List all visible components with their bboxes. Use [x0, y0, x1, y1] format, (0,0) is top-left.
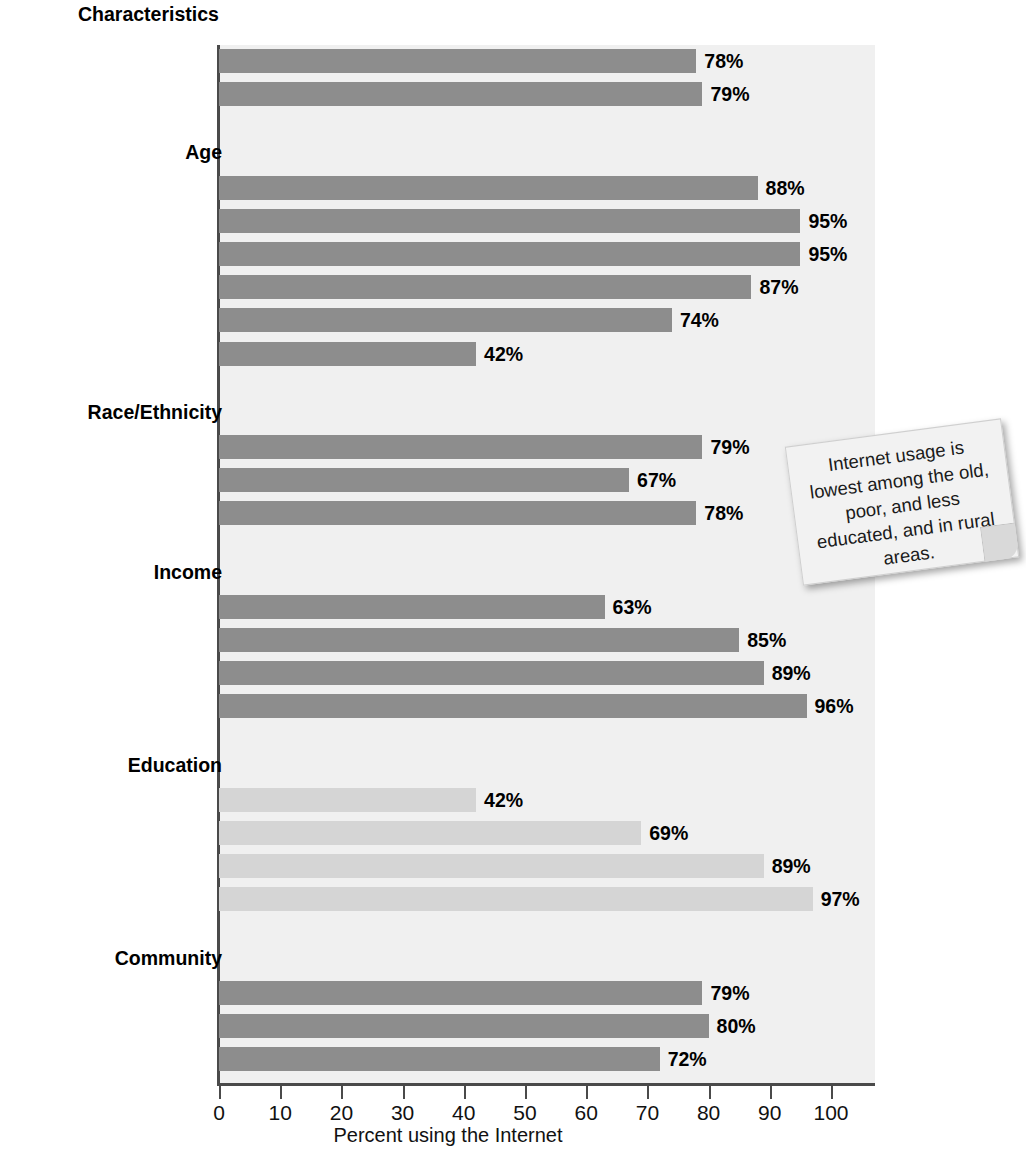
x-axis-tick — [831, 1086, 833, 1099]
bar-value-label: 63% — [613, 595, 652, 619]
bar — [219, 468, 629, 492]
group-heading-community: Community — [0, 946, 222, 970]
x-axis-tick — [280, 1086, 282, 1099]
x-axis-tick-label: 0 — [189, 1100, 249, 1126]
x-axis-tick — [525, 1086, 527, 1099]
bar — [219, 342, 476, 366]
bar-value-label: 80% — [717, 1014, 756, 1038]
x-axis-tick-label: 40 — [434, 1100, 494, 1126]
internet-usage-bar-chart: Characteristics Men78%Women79%Age12–1388… — [0, 0, 1026, 1153]
bar-value-label: 42% — [484, 342, 523, 366]
bar-value-label: 79% — [710, 981, 749, 1005]
x-axis-tick-label: 100 — [801, 1100, 861, 1126]
bar-value-label: 89% — [772, 854, 811, 878]
callout-note: Internet usage is lowest among the old, … — [785, 418, 1019, 585]
plot-background — [219, 45, 875, 1083]
bar — [219, 788, 476, 812]
bar-value-label: 85% — [747, 628, 786, 652]
bar-value-label: 42% — [484, 788, 523, 812]
bar — [219, 1047, 660, 1071]
group-heading-education: Education — [0, 753, 222, 777]
bar — [219, 628, 739, 652]
chart-title: Characteristics — [78, 2, 219, 26]
x-axis-tick — [586, 1086, 588, 1099]
bar-value-label: 72% — [668, 1047, 707, 1071]
x-axis-title: Percent using the Internet — [0, 1124, 1026, 1147]
bar — [219, 595, 605, 619]
bar-value-label: 87% — [759, 275, 798, 299]
bar-value-label: 74% — [680, 308, 719, 332]
bar — [219, 501, 696, 525]
bar — [219, 49, 696, 73]
x-axis-tick — [709, 1086, 711, 1099]
bar-value-label: 96% — [815, 694, 854, 718]
x-axis-tick — [403, 1086, 405, 1099]
bar-value-label: 78% — [704, 501, 743, 525]
x-axis-title-text: Percent using the Internet — [333, 1124, 562, 1146]
x-axis-tick-label: 30 — [373, 1100, 433, 1126]
bar-value-label: 78% — [704, 49, 743, 73]
x-axis-tick-label: 70 — [617, 1100, 677, 1126]
x-axis-tick-label: 10 — [250, 1100, 310, 1126]
bar — [219, 242, 800, 266]
x-axis-tick — [464, 1086, 466, 1099]
bar-value-label: 89% — [772, 661, 811, 685]
bar — [219, 1014, 709, 1038]
x-axis-tick — [341, 1086, 343, 1099]
bar-value-label: 69% — [649, 821, 688, 845]
callout-fold-corner — [980, 522, 1019, 561]
x-axis-tick-label: 80 — [679, 1100, 739, 1126]
group-heading-income: Income — [0, 560, 222, 584]
bar — [219, 694, 807, 718]
bar-value-label: 79% — [710, 82, 749, 106]
bar — [219, 275, 751, 299]
x-axis-tick — [770, 1086, 772, 1099]
bar — [219, 661, 764, 685]
bar — [219, 308, 672, 332]
group-heading-age: Age — [0, 140, 222, 164]
bar — [219, 82, 702, 106]
bar-value-label: 95% — [808, 209, 847, 233]
bar — [219, 887, 813, 911]
x-axis-tick-label: 90 — [740, 1100, 800, 1126]
x-axis-tick-label: 20 — [311, 1100, 371, 1126]
bar-value-label: 79% — [710, 435, 749, 459]
bar — [219, 176, 758, 200]
bar-value-label: 88% — [766, 176, 805, 200]
bar — [219, 209, 800, 233]
bar-value-label: 95% — [808, 242, 847, 266]
bar-value-label: 67% — [637, 468, 676, 492]
bar — [219, 854, 764, 878]
bar — [219, 821, 641, 845]
x-axis-tick — [647, 1086, 649, 1099]
x-axis-line — [217, 1083, 875, 1086]
bar — [219, 981, 702, 1005]
x-axis-tick-label: 60 — [556, 1100, 616, 1126]
x-axis-tick-label: 50 — [495, 1100, 555, 1126]
bar-value-label: 97% — [821, 887, 860, 911]
x-axis-tick — [219, 1086, 221, 1099]
group-heading-race-ethnicity: Race/Ethnicity — [0, 400, 222, 424]
bar — [219, 435, 702, 459]
